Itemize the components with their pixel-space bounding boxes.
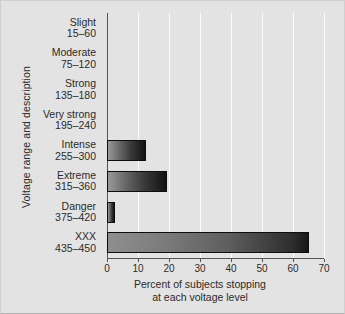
gridline-60: [293, 13, 294, 258]
gridline-50: [262, 13, 263, 258]
category-label-extreme: Extreme315–360: [55, 170, 96, 193]
category-voltage-range: 75–120: [52, 59, 96, 71]
bar-intense: [107, 140, 146, 161]
category-name: Strong: [55, 78, 96, 90]
x-axis-title-line1: Percent of subjects stopping: [60, 278, 340, 291]
category-label-very-strong: Very strong195–240: [43, 109, 96, 132]
gridline-70: [324, 13, 325, 258]
category-label-strong: Strong135–180: [55, 78, 96, 101]
category-voltage-range: 375–420: [55, 212, 96, 224]
category-voltage-range: 195–240: [43, 120, 96, 132]
chart-figure: Voltage range and description 0102030405…: [0, 0, 345, 314]
x-tick-label-50: 50: [249, 263, 275, 274]
category-voltage-range: 255–300: [55, 151, 96, 163]
gridline-30: [200, 13, 201, 258]
gridline-10: [138, 13, 139, 258]
category-voltage-range: 135–180: [55, 90, 96, 102]
category-label-xxx: XXX435–450: [55, 231, 96, 254]
tick-mark-10: [138, 259, 139, 262]
gridline-20: [169, 13, 170, 258]
category-voltage-range: 15–60: [67, 28, 96, 40]
bar-extreme: [107, 171, 167, 192]
tick-mark-40: [231, 259, 232, 262]
tick-mark-60: [293, 259, 294, 262]
x-tick-label-70: 70: [311, 263, 337, 274]
x-tick-label-10: 10: [125, 263, 151, 274]
category-label-slight: Slight15–60: [67, 17, 96, 40]
bar-danger: [107, 202, 115, 223]
y-axis-title: Voltage range and description: [20, 27, 32, 247]
category-voltage-range: 435–450: [55, 243, 96, 255]
tick-mark-50: [262, 259, 263, 262]
x-tick-label-30: 30: [187, 263, 213, 274]
x-tick-label-40: 40: [218, 263, 244, 274]
x-axis-title-line2: at each voltage level: [60, 291, 340, 304]
x-tick-label-60: 60: [280, 263, 306, 274]
x-tick-label-20: 20: [156, 263, 182, 274]
tick-mark-30: [200, 259, 201, 262]
category-label-moderate: Moderate75–120: [52, 47, 96, 70]
plot-area: [107, 13, 324, 258]
bar-xxx: [107, 232, 309, 253]
x-tick-label-0: 0: [94, 263, 120, 274]
x-axis-title: Percent of subjects stopping at each vol…: [60, 278, 340, 303]
category-voltage-range: 315–360: [55, 181, 96, 193]
category-label-danger: Danger375–420: [55, 201, 96, 224]
category-name: XXX: [55, 231, 96, 243]
tick-mark-0: [107, 259, 108, 262]
category-label-intense: Intense255–300: [55, 139, 96, 162]
tick-mark-20: [169, 259, 170, 262]
x-axis-line: [107, 258, 324, 259]
tick-mark-70: [324, 259, 325, 262]
gridline-40: [231, 13, 232, 258]
